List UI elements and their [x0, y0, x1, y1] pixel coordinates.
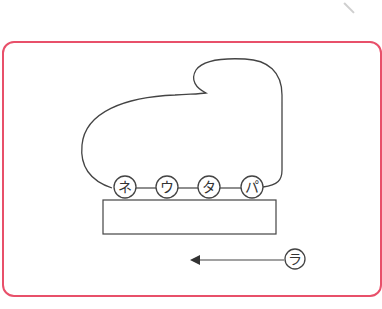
- vehicle-body-outline: [82, 59, 282, 188]
- wheel-label: パ: [245, 179, 259, 195]
- wheel-label: ネ: [118, 179, 132, 195]
- direction-label-circle: ラ: [285, 249, 305, 269]
- wheel-ta: タ: [198, 176, 220, 198]
- wheel-label: ウ: [160, 179, 174, 195]
- wheel-label: タ: [202, 179, 216, 195]
- arrow-left-icon: [190, 255, 200, 265]
- wheel-pa: パ: [241, 176, 263, 198]
- wheel-ne: ネ: [114, 176, 136, 198]
- direction-label: ラ: [288, 251, 302, 267]
- wheel-u: ウ: [156, 176, 178, 198]
- base-platform: [103, 200, 276, 234]
